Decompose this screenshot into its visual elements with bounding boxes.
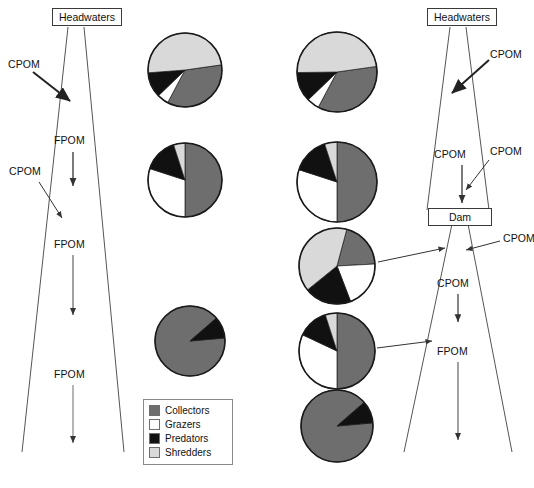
left-fpom-label-upper: FPOM <box>54 134 85 146</box>
pie-chart-group <box>148 32 377 462</box>
legend: Collectors Grazers Predators Shredders <box>143 399 233 465</box>
middle-pie-above-dam <box>297 142 377 222</box>
legend-swatch-grazers <box>149 419 160 430</box>
legend-label-grazers: Grazers <box>165 419 201 431</box>
left-headwaters-box: Headwaters <box>52 8 122 26</box>
legend-item-collectors: Collectors <box>149 404 227 417</box>
legend-swatch-predators <box>149 433 160 444</box>
cpom-input-arrow-upper <box>33 72 70 101</box>
middle-pie-headwaters <box>297 32 377 112</box>
left-pie-midreach <box>148 143 222 217</box>
legend-item-predators: Predators <box>149 432 227 445</box>
middle-pie-below-dam-lower <box>299 313 375 389</box>
connector-arrow-below-dam-lower <box>377 341 432 348</box>
left-cpom-label-lower: CPOM <box>9 165 41 177</box>
pie-slice-shredders <box>297 32 377 73</box>
legend-item-grazers: Grazers <box>149 418 227 431</box>
right-cpom-label-input-above-dam: CPOM <box>490 145 522 157</box>
right-cpom-label-below-dam: CPOM <box>503 232 534 244</box>
legend-item-shredders: Shredders <box>149 446 227 459</box>
pie-slice-collectors <box>337 313 375 389</box>
legend-swatch-shredders <box>149 447 160 458</box>
legend-swatch-collectors <box>149 405 160 416</box>
undammed-flow-arrows <box>33 72 73 443</box>
left-pie-headwaters <box>148 33 222 107</box>
dam-label: Dam <box>449 211 471 223</box>
left-headwaters-label: Headwaters <box>59 11 115 23</box>
pie-to-river-connectors <box>377 248 445 348</box>
left-pie-lowerreach <box>155 306 225 376</box>
pie-slice-collectors <box>337 142 377 222</box>
right-headwaters-label: Headwaters <box>434 11 490 23</box>
right-fpom-label-downstream: FPOM <box>437 345 468 357</box>
connector-arrow-below-dam-upper <box>378 248 445 262</box>
right-headwaters-box: Headwaters <box>427 8 497 26</box>
legend-label-collectors: Collectors <box>165 405 209 417</box>
dam-box: Dam <box>428 208 492 226</box>
legend-label-predators: Predators <box>165 433 208 445</box>
right-cpom-label-upper: CPOM <box>490 48 522 60</box>
left-fpom-label-lower: FPOM <box>54 368 85 380</box>
middle-pie-below-dam <box>299 228 375 304</box>
middle-pie-downstream <box>301 390 373 462</box>
right-cpom-label-above-dam: CPOM <box>434 148 466 160</box>
left-fpom-label-middle: FPOM <box>54 238 85 250</box>
left-cpom-label-upper: CPOM <box>8 58 40 70</box>
legend-label-shredders: Shredders <box>165 447 211 459</box>
river-continuum-diagram: Headwaters CPOM FPOM CPOM FPOM FPOM Head… <box>0 0 534 488</box>
right-cpom-label-downstream: CPOM <box>437 277 469 289</box>
pie-slice-collectors <box>185 143 222 217</box>
dammed-flow-arrows <box>452 60 500 440</box>
